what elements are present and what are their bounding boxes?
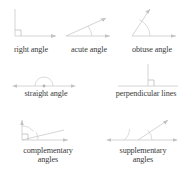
caption-complementary-line2: angles bbox=[38, 155, 58, 164]
caption-perpendicular-lines: perpendicular lines bbox=[104, 89, 188, 98]
caption-supplementary-line1: supplementary bbox=[120, 146, 167, 155]
caption-straight-angle: straight angle bbox=[6, 89, 86, 98]
figure-right-angle bbox=[6, 8, 62, 42]
caption-right-angle: right angle bbox=[2, 45, 60, 54]
figure-complementary-angles bbox=[12, 118, 74, 146]
figure-acute-angle bbox=[62, 8, 118, 42]
caption-supplementary-angles: supplementary angles bbox=[100, 146, 186, 164]
caption-supplementary-line2: angles bbox=[133, 155, 153, 164]
acute-angle-drawing bbox=[62, 8, 118, 42]
caption-obtuse-angle: obtuse angle bbox=[118, 45, 186, 54]
complementary-angles-drawing bbox=[12, 118, 74, 146]
caption-complementary-line1: complementary bbox=[23, 146, 73, 155]
angle-reference-sheet: right angle acute angle obtuse angle bbox=[0, 0, 188, 170]
right-angle-drawing bbox=[6, 8, 62, 42]
perpendicular-lines-drawing bbox=[112, 62, 182, 92]
supplementary-angles-drawing bbox=[102, 118, 182, 146]
caption-complementary-angles: complementary angles bbox=[4, 146, 92, 164]
obtuse-angle-drawing bbox=[120, 6, 182, 42]
figure-supplementary-angles bbox=[102, 118, 182, 146]
caption-acute-angle: acute angle bbox=[58, 45, 120, 54]
figure-obtuse-angle bbox=[120, 6, 182, 42]
figure-perpendicular-lines bbox=[112, 62, 182, 92]
